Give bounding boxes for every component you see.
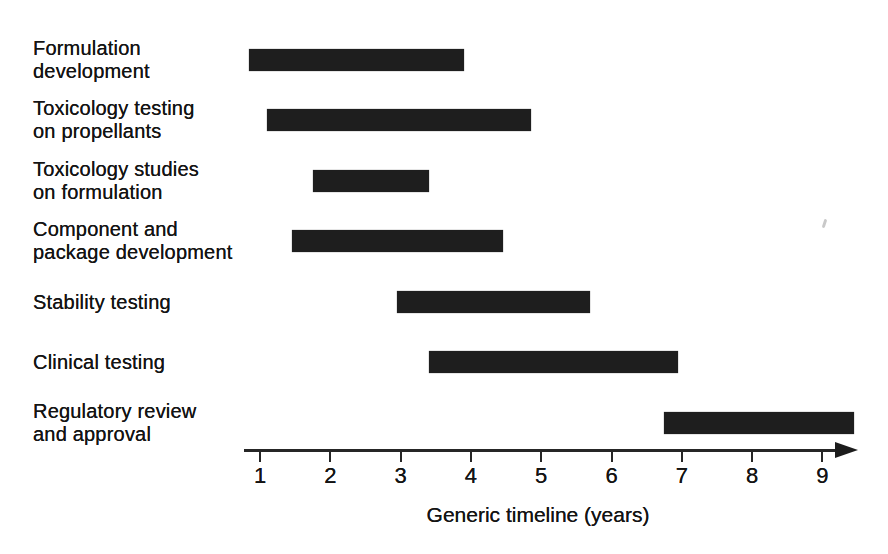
task-label-line: Component and [33,218,248,241]
x-axis-tick-label: 4 [453,465,489,487]
task-label: Toxicology testingon propellants [33,97,248,143]
task-label: Clinical testing [33,351,248,374]
scan-artifact-speck [822,219,828,228]
x-axis-tick-label: 3 [383,465,419,487]
task-label-line: Toxicology testing [33,97,248,120]
x-axis-tick-label: 8 [734,465,770,487]
x-axis-tick-mark [540,451,542,462]
x-axis-tick-mark [259,451,261,462]
x-axis-tick-mark [329,451,331,462]
x-axis-tick-label: 2 [312,465,348,487]
task-label: Regulatory reviewand approval [33,400,248,446]
task-label-line: development [33,60,248,83]
x-axis-tick-label: 6 [594,465,630,487]
x-axis-tick-mark [821,451,823,462]
task-label-line: on formulation [33,181,248,204]
x-axis-title: Generic timeline (years) [427,503,650,527]
task-label-line: Toxicology studies [33,158,248,181]
x-axis-tick-label: 1 [242,465,278,487]
task-label-line: Stability testing [33,290,248,313]
x-axis-tick-mark [681,451,683,462]
x-axis-tick-label: 7 [664,465,700,487]
task-bar [429,351,679,373]
task-label: Formulationdevelopment [33,37,248,83]
x-axis-tick-label: 9 [804,465,840,487]
generic-timeline-gantt-chart: FormulationdevelopmentToxicology testing… [0,0,888,554]
x-axis-tick-mark [470,451,472,462]
task-label-line: and approval [33,423,248,446]
task-bar [313,170,429,192]
task-label: Component andpackage development [33,218,248,264]
x-axis-tick-mark [611,451,613,462]
x-axis-tick-mark [751,451,753,462]
task-bar [664,412,854,434]
task-label-line: Clinical testing [33,351,248,374]
task-bar [292,230,503,252]
task-label-line: package development [33,241,248,264]
task-label-line: Regulatory review [33,400,248,423]
task-bar [249,49,463,71]
task-bar [267,109,531,131]
x-axis-tick-mark [400,451,402,462]
x-axis-arrowhead-icon [835,442,858,458]
x-axis-tick-label: 5 [523,465,559,487]
task-label-line: on propellants [33,120,248,143]
task-bar [397,291,590,313]
task-label-line: Formulation [33,37,248,60]
task-label: Toxicology studieson formulation [33,158,248,204]
task-label: Stability testing [33,290,248,313]
